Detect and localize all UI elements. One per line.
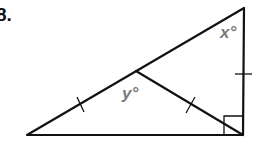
angle-label-y: y° <box>121 84 138 103</box>
angle-label-x: x° <box>219 23 236 42</box>
triangle-diagram: x° y° <box>0 0 253 143</box>
median-segment <box>136 71 243 135</box>
